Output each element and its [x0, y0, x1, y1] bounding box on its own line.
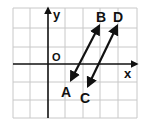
- y-axis-label: y: [53, 7, 61, 22]
- line-cd: [88, 26, 117, 86]
- point-label-a: A: [61, 84, 71, 100]
- origin-label: O: [52, 51, 61, 63]
- coordinate-plane-diagram: y x O A B C D: [0, 0, 146, 125]
- point-label-c: C: [80, 90, 90, 106]
- point-label-b: B: [96, 9, 106, 25]
- point-label-d: D: [113, 9, 123, 25]
- x-axis-label: x: [124, 66, 132, 81]
